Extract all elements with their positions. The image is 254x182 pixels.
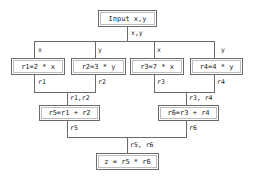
edge-to-r1 bbox=[34, 41, 35, 58]
node-r1: r1=2 * x bbox=[11, 58, 65, 75]
label-r6-out: r6 bbox=[189, 124, 197, 132]
label-to-r4: y bbox=[221, 46, 225, 54]
label-to-r2: y bbox=[98, 46, 102, 54]
node-r3: r3=7 * x bbox=[130, 58, 184, 75]
edge-r3-down bbox=[154, 75, 155, 92]
label-r1-out: r1 bbox=[38, 78, 46, 86]
edge-r1r2-bar bbox=[34, 92, 96, 93]
edge-input-down bbox=[127, 26, 128, 42]
node-input: Input x,y bbox=[98, 10, 157, 27]
edge-r1-down bbox=[34, 75, 35, 92]
label-r5-out: r5 bbox=[70, 124, 78, 132]
label-r2-out: r2 bbox=[98, 78, 106, 86]
edge-fanout-bar bbox=[34, 41, 214, 42]
edge-to-r6 bbox=[186, 92, 187, 105]
label-to-r1: x bbox=[38, 46, 42, 54]
label-r3-out: r3 bbox=[157, 78, 165, 86]
dataflow-diagram: Input x,y r1=2 * x r2=3 * y r3=7 * x r4=… bbox=[0, 0, 254, 182]
label-to-r6: r3, r4 bbox=[189, 94, 212, 102]
edge-r4-down bbox=[214, 75, 215, 92]
edge-to-r4 bbox=[214, 41, 215, 58]
edge-to-r3 bbox=[154, 41, 155, 58]
label-to-z: r5, r6 bbox=[130, 141, 153, 149]
edge-r3r4-bar bbox=[154, 92, 215, 93]
edge-to-r2 bbox=[95, 41, 96, 58]
label-to-r3: x bbox=[157, 46, 161, 54]
label-to-r5: r1,r2 bbox=[70, 94, 90, 102]
label-r4-out: r4 bbox=[217, 78, 225, 86]
label-input-out: x,y bbox=[131, 29, 143, 37]
node-r6: r6=r3 + r4 bbox=[158, 105, 219, 121]
edge-r6-down bbox=[186, 120, 187, 137]
node-z: z = r5 * r6 bbox=[96, 153, 159, 170]
edge-to-r5 bbox=[67, 92, 68, 105]
node-r5: r5=r1 + r2 bbox=[39, 105, 100, 121]
node-r2: r2=3 * y bbox=[71, 58, 126, 75]
edge-r2-down bbox=[95, 75, 96, 92]
edge-to-z bbox=[127, 137, 128, 153]
node-r4: r4=4 * y bbox=[190, 58, 243, 75]
edge-r5-down bbox=[67, 120, 68, 137]
